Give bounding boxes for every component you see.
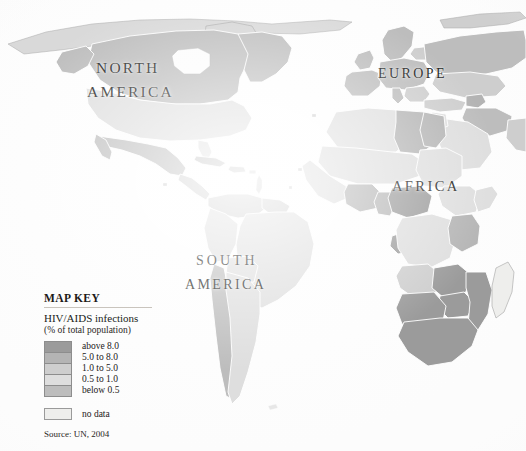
map-key-legend: MAP KEY HIV/AIDS infections (% of total … <box>44 292 174 439</box>
region-congo-drc <box>396 214 456 268</box>
legend-row: 1.0 to 5.0 <box>44 363 174 374</box>
map-key-divider <box>44 307 152 308</box>
map-key-subtitle: HIV/AIDS infections <box>44 312 174 325</box>
legend-swatch-above-8 <box>44 341 72 352</box>
legend-label-above-8: above 8.0 <box>82 341 119 352</box>
legend-swatch-5-to-8 <box>44 352 72 363</box>
legend-swatch-1-to-5 <box>44 363 72 374</box>
region-puerto-rico <box>249 170 256 174</box>
map-key-units: (% of total population) <box>44 325 174 336</box>
legend-label-below-05: below 0.5 <box>82 385 119 396</box>
legend-row: above 8.0 <box>44 341 174 352</box>
map-page: NORTH AMERICA SOUTH AMERICA EUROPE AFRIC… <box>0 0 526 451</box>
legend-source: Source: UN, 2004 <box>44 429 174 439</box>
legend-label-no-data: no data <box>82 408 110 420</box>
map-key-title: MAP KEY <box>44 292 174 304</box>
region-turkey <box>424 98 466 112</box>
legend-row-no-data: no data <box>44 408 174 420</box>
legend-row: below 0.5 <box>44 385 174 396</box>
legend-swatch-no-data <box>44 408 72 420</box>
legend-class-list: above 8.0 5.0 to 8.0 1.0 to 5.0 0.5 to 1… <box>44 341 174 397</box>
legend-label-1-to-5: 1.0 to 5.0 <box>82 363 118 374</box>
legend-label-05-to-1: 0.5 to 1.0 <box>82 374 118 385</box>
legend-row: 0.5 to 1.0 <box>44 374 174 385</box>
legend-label-5-to-8: 5.0 to 8.0 <box>82 352 118 363</box>
legend-swatch-05-to-1 <box>44 374 72 385</box>
legend-row: 5.0 to 8.0 <box>44 352 174 363</box>
region-central-african-republic <box>388 186 432 218</box>
legend-swatch-below-05 <box>44 385 72 396</box>
